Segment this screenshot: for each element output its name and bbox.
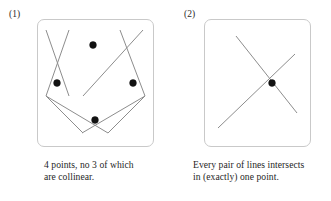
bottom-point (92, 117, 99, 124)
top-point (90, 42, 97, 49)
panel-2-lines (218, 36, 297, 128)
left-point (54, 80, 61, 87)
panel-2-points (269, 80, 276, 87)
panel-2: (2) Every pair of lines intersects in (e… (180, 0, 331, 201)
panel-1: (1) 4 points, no 3 of which are collinea… (0, 0, 180, 201)
line-b (218, 54, 295, 128)
intersection-point (269, 80, 276, 87)
right-point (130, 80, 137, 87)
panel-2-caption: Every pair of lines intersects in (exact… (193, 159, 331, 184)
figure-root: (1) 4 points, no 3 of which are collinea… (0, 0, 331, 201)
panel-1-caption: 4 points, no 3 of which are collinear. (44, 159, 176, 184)
